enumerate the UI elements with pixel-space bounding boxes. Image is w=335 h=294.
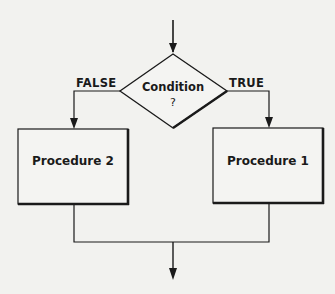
false-branch-connector xyxy=(70,91,120,129)
decision-question-mark: ? xyxy=(133,95,213,110)
entry-arrow xyxy=(169,20,177,53)
false-branch-label: FALSE xyxy=(76,76,116,90)
merge-connector xyxy=(74,204,269,242)
flowchart-canvas xyxy=(0,0,335,294)
true-branch-label: TRUE xyxy=(229,76,264,90)
decision-label: Condition ? xyxy=(133,80,213,110)
true-branch-connector xyxy=(227,91,273,128)
decision-condition-text: Condition xyxy=(133,80,213,95)
procedure-1-label: Procedure 1 xyxy=(213,154,323,168)
exit-arrow xyxy=(169,242,177,280)
procedure-2-label: Procedure 2 xyxy=(18,154,128,168)
